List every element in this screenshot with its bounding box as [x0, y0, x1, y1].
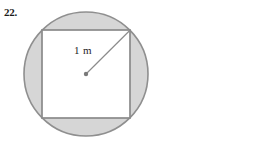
geometry-figure: 1 m: [20, 2, 160, 144]
radius-measurement-label: 1 m: [74, 44, 92, 57]
figure-svg: [20, 2, 160, 144]
problem-number-label: 22.: [4, 6, 17, 18]
center-dot-icon: [84, 72, 88, 76]
figure-page: 22. 1 m: [0, 0, 265, 144]
